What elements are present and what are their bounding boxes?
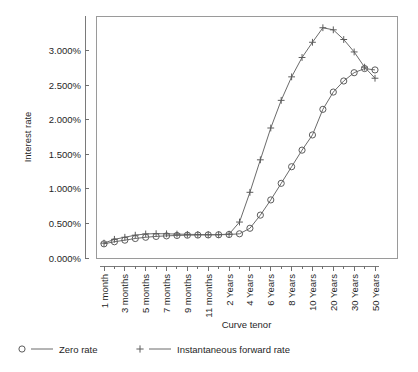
x-tick-label: 10 Years — [307, 274, 318, 311]
legend-label: Instantaneous forward rate — [177, 344, 290, 355]
x-tick-label: 20 Years — [328, 274, 339, 311]
y-tick-label: 1.500% — [49, 149, 82, 160]
x-axis-title: Curve tenor — [222, 319, 272, 330]
series-line — [104, 28, 375, 243]
x-tick-label: 11 months — [203, 274, 214, 318]
y-tick-label: 0.000% — [49, 253, 82, 264]
legend-label: Zero rate — [59, 344, 98, 355]
y-axis: 0.000%0.500%1.000%1.500%2.000%2.500%3.00… — [49, 16, 89, 264]
x-tick-label: 5 months — [140, 274, 151, 313]
x-tick-label: 1 month — [99, 274, 110, 308]
series-forward-rate — [101, 24, 379, 246]
interest-rate-curve-chart: 0.000%0.500%1.000%1.500%2.000%2.500%3.00… — [0, 0, 418, 372]
legend-entry: Zero rate — [19, 344, 98, 355]
x-axis: 1 month3 months5 months7 months9 months1… — [99, 266, 381, 318]
x-tick-label: 6 Years — [265, 274, 276, 306]
circle-marker-icon — [19, 346, 25, 352]
x-tick-label: 50 Years — [370, 274, 381, 311]
y-axis-title: Interest rate — [22, 112, 33, 163]
x-tick-label: 2 Years — [224, 274, 235, 306]
x-tick-label: 9 months — [182, 274, 193, 313]
y-tick-label: 3.000% — [49, 45, 82, 56]
chart-figure: 0.000%0.500%1.000%1.500%2.000%2.500%3.00… — [0, 0, 418, 372]
x-tick-label: 4 Years — [244, 274, 255, 306]
data-series-group — [101, 24, 379, 247]
chart-legend: Zero rateInstantaneous forward rate — [19, 344, 290, 355]
x-tick-label: 8 Years — [286, 274, 297, 306]
legend-entry: Instantaneous forward rate — [136, 344, 290, 355]
x-tick-label: 30 Years — [349, 274, 360, 311]
y-tick-label: 1.000% — [49, 183, 82, 194]
x-tick-label: 7 months — [161, 274, 172, 313]
y-tick-label: 2.500% — [49, 80, 82, 91]
x-tick-label: 3 months — [119, 274, 130, 313]
y-tick-label: 0.500% — [49, 218, 82, 229]
y-tick-label: 2.000% — [49, 114, 82, 125]
